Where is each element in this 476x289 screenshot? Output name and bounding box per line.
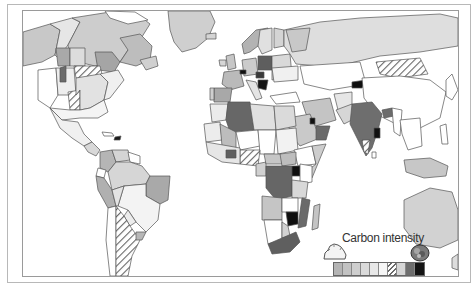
legend-swatch-4 [361, 263, 370, 275]
region-algeria [226, 102, 254, 132]
region-usa-dark [60, 66, 66, 82]
region-alaska [23, 24, 60, 66]
region-czech [256, 72, 264, 78]
smoke-cloud-icon [409, 244, 431, 262]
region-iceland [206, 33, 216, 39]
region-finland [274, 28, 284, 48]
legend-swatch-7-hatched [388, 263, 397, 275]
region-qatar-dark [310, 118, 315, 124]
region-sri-lanka [372, 152, 376, 158]
region-ireland [219, 60, 226, 66]
region-manitoba [56, 48, 70, 66]
legend-swatch-10 [415, 263, 424, 275]
clean-cloud-icon [322, 241, 348, 261]
region-chad [258, 130, 276, 154]
region-uganda-dark [292, 166, 300, 176]
region-indonesia [404, 158, 448, 178]
region-uruguay [136, 232, 146, 240]
region-japan [446, 74, 458, 100]
region-cuba [102, 132, 114, 136]
legend-swatch-2 [343, 263, 352, 275]
region-oman [316, 126, 330, 140]
legend-swatch-3 [352, 263, 361, 275]
legend-color-scale [333, 262, 425, 276]
legend-swatch-6 [379, 263, 388, 275]
region-tanzania [292, 180, 308, 198]
region-usa-central-hatched [68, 90, 80, 110]
region-new-zealand [452, 254, 458, 270]
region-india-east-dark [374, 128, 380, 138]
world-map [0, 0, 476, 289]
region-philippines [440, 124, 448, 144]
region-libya [250, 104, 276, 130]
region-car [264, 154, 282, 164]
legend-swatch-1 [334, 263, 343, 275]
region-mongolia-hatched [376, 58, 428, 78]
region-mozambique [298, 198, 310, 228]
region-poland [258, 56, 272, 70]
region-zambia [282, 198, 298, 212]
region-greenland [168, 11, 215, 52]
region-portugal [210, 88, 214, 100]
region-russia [284, 14, 458, 66]
region-west-africa-dark [226, 150, 236, 158]
region-usa-west [38, 68, 58, 108]
region-drc [266, 166, 292, 200]
region-ukraine [272, 66, 298, 82]
legend-swatch-9 [406, 263, 415, 275]
region-morocco [210, 104, 228, 122]
region-se-asia [400, 118, 422, 150]
region-madagascar [312, 204, 320, 230]
region-niger [236, 130, 260, 150]
region-balkans-dark [258, 80, 268, 90]
region-sweden [258, 28, 272, 54]
region-belgium-dark [240, 70, 246, 74]
region-egypt [274, 106, 296, 130]
region-saskatchewan [70, 48, 85, 66]
region-uk [226, 54, 236, 70]
region-zimbabwe-dark [286, 212, 298, 226]
legend-swatch-8 [397, 263, 406, 275]
legend-title: Carbon intensity [342, 231, 424, 245]
region-spain [214, 88, 232, 102]
region-south-sudan [280, 152, 296, 166]
region-turkey [270, 92, 300, 104]
region-cameroon [256, 162, 266, 176]
region-haiti [114, 136, 121, 140]
legend-swatch-5 [370, 263, 379, 275]
region-angola [262, 196, 282, 220]
region-chile [106, 206, 116, 276]
region-mauritania [204, 122, 222, 142]
